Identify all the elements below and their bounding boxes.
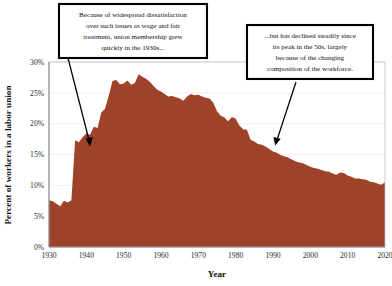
union-membership-area-chart: 0%5%10%15%20%25%30% 19301940195019601970… xyxy=(0,0,392,286)
callout-right-line-3: because of the changing xyxy=(276,54,345,62)
x-tick-1950: 1950 xyxy=(116,251,131,260)
x-tick-2000: 2000 xyxy=(303,251,318,260)
y-tick-5%: 5% xyxy=(34,212,45,221)
callout-right-line-4: composition of the workforce. xyxy=(267,65,353,73)
callout-right-line-1: ...but has declined steadily since xyxy=(264,32,356,40)
y-tick-10%: 10% xyxy=(30,181,45,190)
callout-right-line-2: its peak in the 50s, largely xyxy=(273,43,348,51)
chart-figure: 0%5%10%15%20%25%30% 19301940195019601970… xyxy=(0,0,392,286)
x-tick-1960: 1960 xyxy=(153,251,168,260)
x-tick-1980: 1980 xyxy=(228,251,243,260)
x-tick-2020: 2020 xyxy=(377,251,392,260)
y-tick-25%: 25% xyxy=(30,89,45,98)
y-axis-tick-labels: 0%5%10%15%20%25%30% xyxy=(30,58,45,252)
callout-left-line-4: quickly in the 1930s... xyxy=(101,44,164,52)
x-tick-2010: 2010 xyxy=(340,251,355,260)
callout-left-line-1: Because of widespread dissatisfaction xyxy=(79,11,187,19)
y-tick-30%: 30% xyxy=(30,58,45,67)
y-tick-20%: 20% xyxy=(30,119,45,128)
y-tick-15%: 15% xyxy=(30,150,45,159)
x-axis-tick-labels: 1930194019501960197019801990200020102020 xyxy=(41,251,392,260)
x-tick-1970: 1970 xyxy=(191,251,206,260)
x-tick-1930: 1930 xyxy=(41,251,56,260)
callout-left-line-2: over such issues as wage and fair xyxy=(86,22,181,30)
y-axis-title: Percent of workers in a labor union xyxy=(3,85,13,224)
x-axis-title: Year xyxy=(208,269,226,279)
x-tick-1940: 1940 xyxy=(79,251,94,260)
x-tick-1990: 1990 xyxy=(265,251,280,260)
callout-left-line-3: treatment, union membership grew xyxy=(83,33,183,41)
